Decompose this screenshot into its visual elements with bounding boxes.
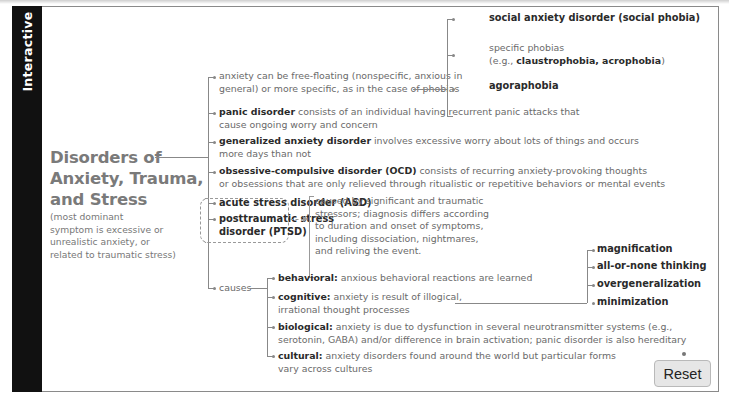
- bullet-icon: [452, 54, 455, 57]
- anxiety-branch-text[interactable]: anxiety can be free-floating (nonspecifi…: [219, 70, 462, 95]
- panic-desc: consists of an individual having recurre…: [295, 106, 580, 117]
- bullet-icon: [272, 355, 275, 358]
- bullet-icon: [213, 141, 216, 144]
- bullet-icon: [592, 266, 595, 269]
- bullet-icon: [272, 296, 275, 299]
- gad-term: generalized anxiety disorder: [219, 135, 371, 146]
- distortion-minimization[interactable]: minimization: [597, 296, 669, 307]
- subtitle-line: related to traumatic stress): [50, 249, 210, 262]
- ocd-term: obsessive-compulsive disorder (OCD): [219, 165, 416, 176]
- causes-trunk: [267, 278, 268, 356]
- ocd-desc: consists of recurring anxiety-provoking …: [416, 165, 647, 176]
- behavioral-desc: anxious behavioral reactions are learned: [338, 272, 533, 283]
- root-connector: [155, 157, 208, 158]
- distortion-overgeneralization[interactable]: overgeneralization: [597, 278, 701, 289]
- distortion-all-or-none[interactable]: all-or-none thinking: [597, 260, 707, 271]
- cultural-term: cultural:: [278, 350, 323, 361]
- phobia-connector: [413, 89, 447, 90]
- ocd-desc: or obsessions that are only relieved thr…: [219, 178, 665, 191]
- eg-prefix: (e.g.,: [489, 55, 516, 66]
- bullet-icon: [213, 112, 216, 115]
- distortion-trunk: [587, 250, 588, 303]
- gad-desc: involves excessive worry about lots of t…: [371, 135, 639, 146]
- trauma-desc-line: caused by significant and traumatic: [315, 195, 489, 208]
- bullet-icon: [592, 302, 595, 305]
- distortion-magnification[interactable]: magnification: [597, 243, 673, 254]
- cognitive-desc: irrational thought processes: [278, 304, 462, 317]
- biological-cause[interactable]: biological: anxiety is due to dysfunctio…: [278, 321, 686, 346]
- bullet-icon: [592, 284, 595, 287]
- biological-desc: serotonin, GABA) and/or difference in br…: [278, 334, 686, 347]
- bullet-icon: [592, 249, 595, 252]
- agoraphobia-item[interactable]: agoraphobia: [489, 80, 559, 91]
- cultural-cause[interactable]: cultural: anxiety disorders found around…: [278, 350, 616, 375]
- biological-term: biological:: [278, 321, 333, 332]
- title-line-2: Anxiety, Trauma,: [50, 168, 203, 189]
- close-paren: ): [661, 55, 665, 66]
- ocd-item[interactable]: obsessive-compulsive disorder (OCD) cons…: [219, 165, 665, 190]
- bracket-icon: [309, 196, 314, 278]
- subtitle-line: (most dominant: [50, 211, 210, 224]
- trauma-desc-line: stressors; diagnosis differs according: [315, 208, 489, 221]
- indicator-dot: [682, 352, 686, 356]
- gad-item[interactable]: generalized anxiety disorder involves ex…: [219, 135, 639, 160]
- bullet-icon: [213, 171, 216, 174]
- bullet-icon: [213, 287, 216, 290]
- cognitive-term: cognitive:: [278, 291, 331, 302]
- gad-desc: more days than not: [219, 148, 639, 161]
- root-subtitle: (most dominant symptom is excessive or u…: [50, 211, 210, 261]
- arrow-right-icon: [303, 216, 308, 222]
- social-anxiety-item[interactable]: social anxiety disorder (social phobia): [489, 12, 700, 23]
- trauma-description: caused by significant and traumatic stre…: [315, 195, 489, 258]
- panic-desc: cause ongoing worry and concern: [219, 119, 580, 132]
- panic-disorder-item[interactable]: panic disorder consists of an individual…: [219, 106, 580, 131]
- specific-phobias-label: specific phobias: [489, 42, 665, 55]
- cognitive-cause[interactable]: cognitive: anxiety is result of illogica…: [278, 291, 462, 316]
- cultural-desc: anxiety disorders found around the world…: [323, 350, 616, 361]
- title-line-3: and Stress: [50, 189, 203, 210]
- trauma-desc-line: including dissociation, nightmares,: [315, 233, 489, 246]
- behavioral-cause[interactable]: behavioral: anxious behavioral reactions…: [278, 272, 532, 285]
- anxiety-line: anxiety can be free-floating (nonspecifi…: [219, 70, 462, 83]
- trauma-desc-line: and reliving the event.: [315, 245, 489, 258]
- cultural-desc: vary across cultures: [278, 363, 616, 376]
- trauma-desc-line: to duration and onset of symptoms,: [315, 220, 489, 233]
- reset-button[interactable]: Reset: [654, 360, 711, 387]
- main-trunk: [208, 77, 209, 288]
- distortion-connector: [455, 303, 587, 304]
- bullet-icon: [272, 326, 275, 329]
- causes-label[interactable]: causes: [219, 282, 251, 295]
- panic-term: panic disorder: [219, 106, 295, 117]
- sidebar-label: Interactive: [12, 6, 42, 96]
- bullet-icon: [452, 88, 455, 91]
- behavioral-term: behavioral:: [278, 272, 338, 283]
- clipped-caption-edge: [0, 0, 729, 4]
- specific-phobias-item[interactable]: specific phobias (e.g., claustrophobia, …: [489, 42, 665, 67]
- phobia-trunk: [447, 19, 448, 116]
- interactive-label: Interactive: [20, 11, 35, 91]
- causes-connector: [250, 288, 267, 289]
- bullet-icon: [452, 18, 455, 21]
- cognitive-desc: anxiety is result of illogical,: [331, 291, 462, 302]
- bullet-icon: [272, 277, 275, 280]
- dashed-arrow-line: [290, 219, 304, 220]
- phobia-examples: claustrophobia, acrophobia: [516, 55, 661, 66]
- bullet-icon: [213, 76, 216, 79]
- subtitle-line: unrealistic anxiety, or: [50, 236, 210, 249]
- subtitle-line: symptom is excessive or: [50, 224, 210, 237]
- biological-desc: anxiety is due to dysfunction in several…: [333, 321, 673, 332]
